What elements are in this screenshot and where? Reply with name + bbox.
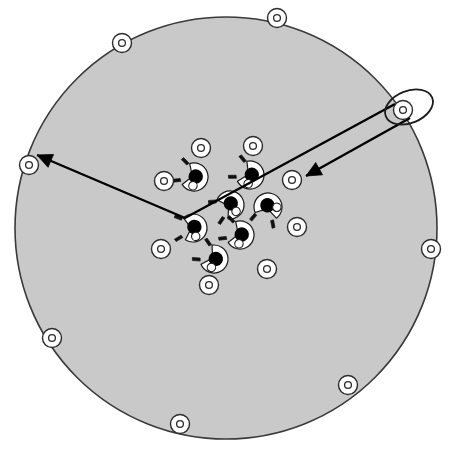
marker-center (119, 40, 126, 47)
marker-center (274, 15, 281, 22)
marker-center (49, 335, 56, 342)
marker-center (428, 246, 435, 253)
landmark-marker[interactable] (244, 137, 263, 156)
landmark-marker[interactable] (268, 9, 287, 28)
landmark-marker[interactable] (288, 218, 307, 237)
landmark-marker[interactable] (113, 34, 132, 53)
figure-canvas (0, 0, 457, 456)
marker-center (177, 421, 184, 428)
marker-center (294, 224, 301, 231)
landmark-marker[interactable] (422, 240, 441, 259)
arena-disc (15, 17, 437, 439)
landmark-marker[interactable] (258, 260, 277, 279)
landmark-marker[interactable] (155, 172, 174, 191)
landmark-marker[interactable] (394, 101, 413, 120)
landmark-marker[interactable] (283, 171, 302, 190)
marker-center (26, 162, 33, 169)
marker-center (158, 246, 165, 253)
landmark-marker[interactable] (20, 156, 39, 175)
landmark-marker[interactable] (152, 240, 171, 259)
landmark-marker[interactable] (171, 415, 190, 434)
marker-center (264, 266, 271, 273)
marker-center (289, 177, 296, 184)
arena-scene (0, 0, 457, 456)
robot-sensor (191, 232, 200, 241)
marker-center (206, 282, 213, 289)
landmark-marker[interactable] (43, 329, 62, 348)
landmark-marker[interactable] (200, 276, 219, 295)
marker-center (161, 178, 168, 185)
landmark-marker[interactable] (192, 139, 211, 158)
marker-center (250, 143, 257, 150)
marker-center (400, 107, 407, 114)
marker-center (345, 382, 352, 389)
marker-center (198, 145, 205, 152)
landmark-marker[interactable] (339, 376, 358, 395)
